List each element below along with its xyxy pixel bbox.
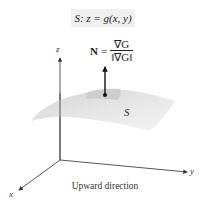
- normal-vector-diagram: S: z = g(x, y) N = ∇G ‖∇G‖ z y x S Upwar…: [0, 0, 203, 204]
- equals-sign: =: [101, 45, 107, 57]
- fraction-denominator: ‖∇G‖: [110, 51, 133, 64]
- surface-label: S: [124, 106, 130, 118]
- y-axis: [60, 160, 187, 172]
- normal-formula: N = ∇G ‖∇G‖: [90, 38, 133, 64]
- z-axis-label: z: [56, 44, 60, 54]
- diagram-graphic: [0, 0, 203, 204]
- x-axis-label: x: [9, 189, 13, 199]
- y-axis-label: y: [190, 166, 194, 176]
- fraction: ∇G ‖∇G‖: [110, 38, 133, 64]
- normal-symbol: N: [90, 45, 98, 57]
- x-axis: [19, 160, 60, 190]
- figure-caption: Upward direction: [60, 181, 150, 191]
- fraction-numerator: ∇G: [112, 38, 131, 50]
- surface-point: [103, 93, 107, 97]
- surface-equation-label: S: z = g(x, y): [71, 9, 135, 27]
